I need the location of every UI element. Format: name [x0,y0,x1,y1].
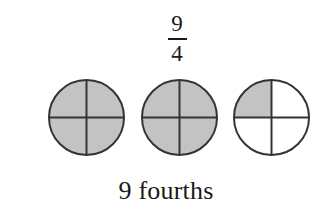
circle-2-graphic [140,78,219,157]
circle-1-graphic [47,78,126,157]
fraction-bar [168,38,187,40]
fraction-denominator: 4 [171,42,183,65]
fraction-figure: 9 4 [0,0,332,215]
circle-models-row [0,78,332,160]
fraction-numerator: 9 [171,12,183,35]
circle-3-graphic [232,78,311,157]
circle-model-2 [140,78,219,157]
circle-model-1 [47,78,126,157]
fraction-label: 9 4 [155,12,199,65]
circle-model-3 [232,78,311,157]
figure-caption: 9 fourths [0,176,332,206]
